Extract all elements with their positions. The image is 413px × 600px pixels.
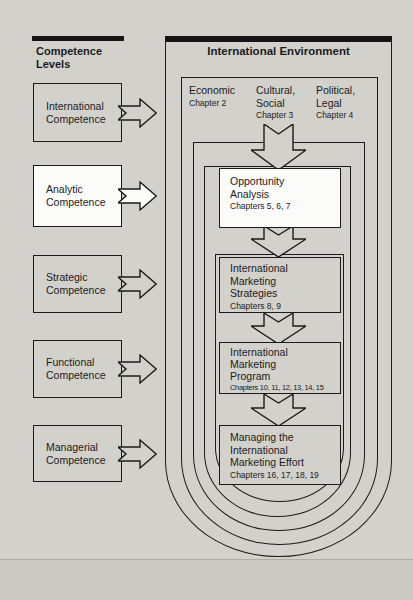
- flow-box-marketing-program: International Marketing Program Chapters…: [219, 342, 341, 394]
- flow-box-line: Program: [230, 370, 340, 382]
- flow-box-marketing-strategies: International Marketing Strategies Chapt…: [219, 257, 341, 313]
- competence-box-functional: Functional Competence: [33, 340, 122, 398]
- flow-box-line: Marketing: [230, 358, 340, 370]
- sector-label: Political,: [316, 84, 355, 97]
- flow-box-line: Strategies: [230, 287, 340, 300]
- right-arrow-icon: [118, 354, 157, 384]
- flow-box-line: International: [230, 346, 340, 358]
- sector-chapter: Chapter 2: [189, 98, 235, 108]
- competence-box-line: International: [46, 100, 121, 113]
- environment-header-bar: [165, 36, 392, 42]
- page-bottom-band: [0, 559, 413, 600]
- flow-box-opportunity-analysis: Opportunity Analysis Chapters 5, 6, 7: [219, 168, 341, 228]
- scanned-textbook-figure: { "left_panel": { "header": { "line1": "…: [0, 0, 413, 600]
- flow-box-chapters: Chapters 8, 9: [230, 301, 340, 311]
- competence-box-line: Competence: [46, 196, 121, 209]
- competence-box-line: Competence: [46, 369, 121, 382]
- right-arrow-icon: [118, 181, 157, 211]
- competence-box-line: Functional: [46, 356, 121, 369]
- flow-box-chapters: Chapters 10, 11, 12, 13, 14, 15: [230, 383, 340, 393]
- down-arrow-icon: [251, 226, 306, 257]
- competence-header-line: Levels: [36, 58, 102, 71]
- competence-box-strategic: Strategic Competence: [33, 255, 122, 313]
- sector-label: Economic: [189, 84, 235, 97]
- flow-box-line: Marketing: [230, 275, 340, 288]
- sector-economic: Economic Chapter 2: [189, 84, 235, 108]
- competence-header: Competence Levels: [36, 45, 102, 71]
- flow-box-line: International: [230, 444, 340, 457]
- competence-box-line: Analytic: [46, 183, 121, 196]
- competence-box-line: Competence: [46, 284, 121, 297]
- environment-title: International Environment: [165, 45, 392, 57]
- competence-box-international: International Competence: [33, 83, 122, 142]
- flow-box-line: Managing the: [230, 431, 340, 444]
- sector-label: Cultural,: [256, 84, 295, 97]
- right-arrow-icon: [118, 98, 157, 128]
- competence-header-line: Competence: [36, 45, 102, 58]
- flow-box-line: Marketing Effort: [230, 456, 340, 469]
- competence-box-managerial: Managerial Competence: [33, 425, 122, 482]
- flow-box-chapters: Chapters 16, 17, 18, 19: [230, 470, 340, 480]
- sector-chapter: Chapter 3: [256, 110, 295, 120]
- flow-box-line: International: [230, 262, 340, 275]
- competence-box-line: Managerial: [46, 441, 121, 454]
- sector-label: Social: [256, 97, 295, 110]
- flow-box-managing-effort: Managing the International Marketing Eff…: [219, 425, 341, 485]
- competence-box-line: Strategic: [46, 271, 121, 284]
- sector-chapter: Chapter 4: [316, 110, 355, 120]
- flow-box-line: Opportunity: [230, 175, 340, 188]
- competence-box-analytic: Analytic Competence: [33, 165, 122, 227]
- down-arrow-icon: [251, 124, 306, 170]
- flow-box-chapters: Chapters 5, 6, 7: [230, 201, 340, 211]
- right-arrow-icon: [118, 269, 157, 299]
- down-arrow-icon: [251, 313, 306, 344]
- down-arrow-icon: [251, 394, 306, 426]
- right-arrow-icon: [118, 439, 157, 469]
- sector-cultural-social: Cultural, Social Chapter 3: [256, 84, 295, 120]
- sector-political-legal: Political, Legal Chapter 4: [316, 84, 355, 120]
- competence-box-line: Competence: [46, 454, 121, 467]
- flow-box-line: Analysis: [230, 188, 340, 201]
- sector-label: Legal: [316, 97, 355, 110]
- competence-header-bar: [32, 36, 124, 41]
- competence-box-line: Competence: [46, 113, 121, 126]
